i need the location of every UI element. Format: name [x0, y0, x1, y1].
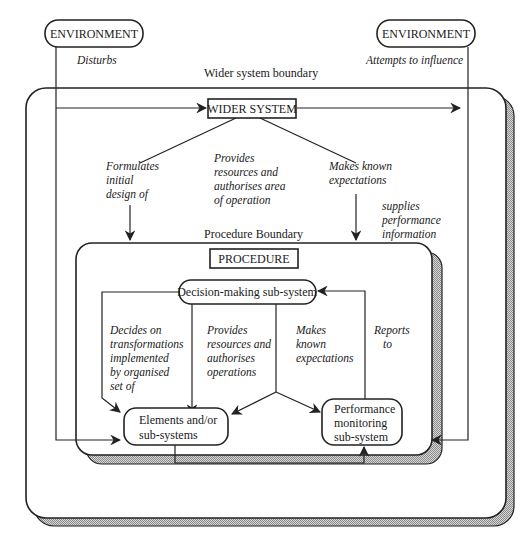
- decision-making-node: Decision-making sub-system: [177, 280, 317, 304]
- makes-known-outer-label: Makes known expectations: [328, 160, 395, 187]
- wider-system-node: WIDER SYSTEM: [207, 99, 297, 118]
- wider-system-boundary-label: Wider system boundary: [204, 66, 318, 80]
- environment-left-node: ENVIRONMENT: [45, 20, 143, 47]
- systems-diagram: ENVIRONMENT ENVIRONMENT Disturbs Attempt…: [0, 0, 521, 540]
- decision-making-label: Decision-making sub-system: [177, 285, 317, 299]
- wider-system-label: WIDER SYSTEM: [207, 102, 297, 116]
- disturbs-label: Disturbs: [76, 54, 117, 66]
- environment-right-node: ENVIRONMENT: [377, 20, 475, 47]
- environment-right-label: ENVIRONMENT: [382, 27, 471, 41]
- procedure-node: PROCEDURE: [210, 249, 298, 268]
- elements-node: Elements and/or sub-systems: [124, 408, 228, 445]
- procedure-label: PROCEDURE: [218, 252, 289, 266]
- performance-monitoring-node: Performance monitoring sub-system: [322, 399, 402, 445]
- attempts-to-influence-label: Attempts to influence: [365, 54, 463, 67]
- environment-left-label: ENVIRONMENT: [50, 27, 139, 41]
- procedure-boundary-label: Procedure Boundary: [204, 227, 303, 241]
